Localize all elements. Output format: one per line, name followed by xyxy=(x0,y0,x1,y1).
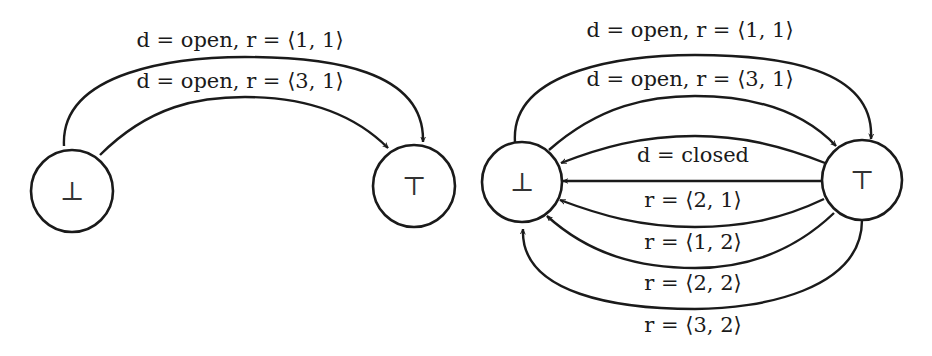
right-label-2-2: r = ⟨2, 2⟩ xyxy=(644,271,741,295)
left-edge-open-3-1 xyxy=(100,97,388,155)
bottom-symbol-icon: ⊥ xyxy=(510,167,534,197)
state-diagrams: d = open, r = ⟨1, 1⟩ d = open, r = ⟨3, 1… xyxy=(0,0,932,356)
left-label-open-3-1: d = open, r = ⟨3, 1⟩ xyxy=(136,69,343,93)
right-label-1-2: r = ⟨1, 2⟩ xyxy=(644,230,741,254)
right-label-open-1-1: d = open, r = ⟨1, 1⟩ xyxy=(586,18,793,42)
right-label-open-3-1: d = open, r = ⟨3, 1⟩ xyxy=(586,67,793,91)
bottom-symbol-icon: ⊥ xyxy=(60,176,84,206)
right-diagram: d = open, r = ⟨1, 1⟩ d = open, r = ⟨3, 1… xyxy=(482,18,902,337)
right-node-top: ⊤ xyxy=(822,140,902,220)
top-symbol-icon: ⊤ xyxy=(850,165,874,195)
left-node-top: ⊤ xyxy=(373,145,455,227)
left-diagram: d = open, r = ⟨1, 1⟩ d = open, r = ⟨3, 1… xyxy=(31,28,455,232)
left-node-bottom: ⊥ xyxy=(31,150,113,232)
right-edge-open-3-1 xyxy=(549,96,836,150)
left-label-open-1-1: d = open, r = ⟨1, 1⟩ xyxy=(136,28,343,52)
right-label-closed: d = closed xyxy=(637,143,749,167)
right-node-bottom: ⊥ xyxy=(482,142,562,222)
right-label-2-1: r = ⟨2, 1⟩ xyxy=(644,188,741,212)
top-symbol-icon: ⊤ xyxy=(402,171,426,201)
right-label-3-2: r = ⟨3, 2⟩ xyxy=(644,313,741,337)
